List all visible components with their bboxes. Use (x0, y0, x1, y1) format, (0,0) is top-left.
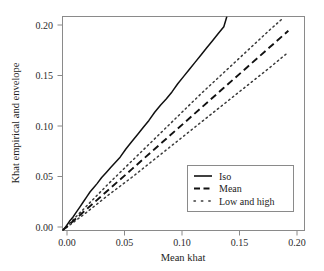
y-tick-label-1: 0.05 (36, 171, 54, 182)
x-axis-tick-labels: 0.00 0.05 0.10 0.15 0.20 (58, 237, 306, 248)
x-tick-label-4: 0.20 (288, 237, 306, 248)
x-axis-title: Mean khat (161, 252, 206, 263)
y-axis-title: Khat empirical and envelope (10, 62, 21, 183)
y-tick-label-3: 0.15 (36, 70, 54, 81)
x-tick-label-2: 0.10 (173, 237, 191, 248)
y-axis-ticks (58, 25, 63, 227)
y-axis-tick-labels: 0.00 0.05 0.10 0.15 0.20 (36, 20, 54, 233)
legend-label-mean: Mean (219, 183, 242, 194)
x-tick-label-0: 0.00 (58, 237, 76, 248)
chart-svg: 0.00 0.05 0.10 0.15 0.20 0.00 0.05 0.10 … (0, 0, 324, 271)
y-tick-label-2: 0.10 (36, 121, 54, 132)
x-axis-ticks (67, 231, 297, 236)
legend-label-low-and-high: Low and high (219, 196, 275, 207)
chart-figure: 0.00 0.05 0.10 0.15 0.20 0.00 0.05 0.10 … (0, 0, 324, 271)
x-tick-label-1: 0.05 (116, 237, 134, 248)
y-tick-label-4: 0.20 (36, 20, 54, 31)
chart-legend: Iso Mean Low and high (188, 166, 294, 212)
legend-label-iso: Iso (219, 171, 231, 182)
x-tick-label-3: 0.15 (231, 237, 249, 248)
y-tick-label-0: 0.00 (36, 222, 54, 233)
